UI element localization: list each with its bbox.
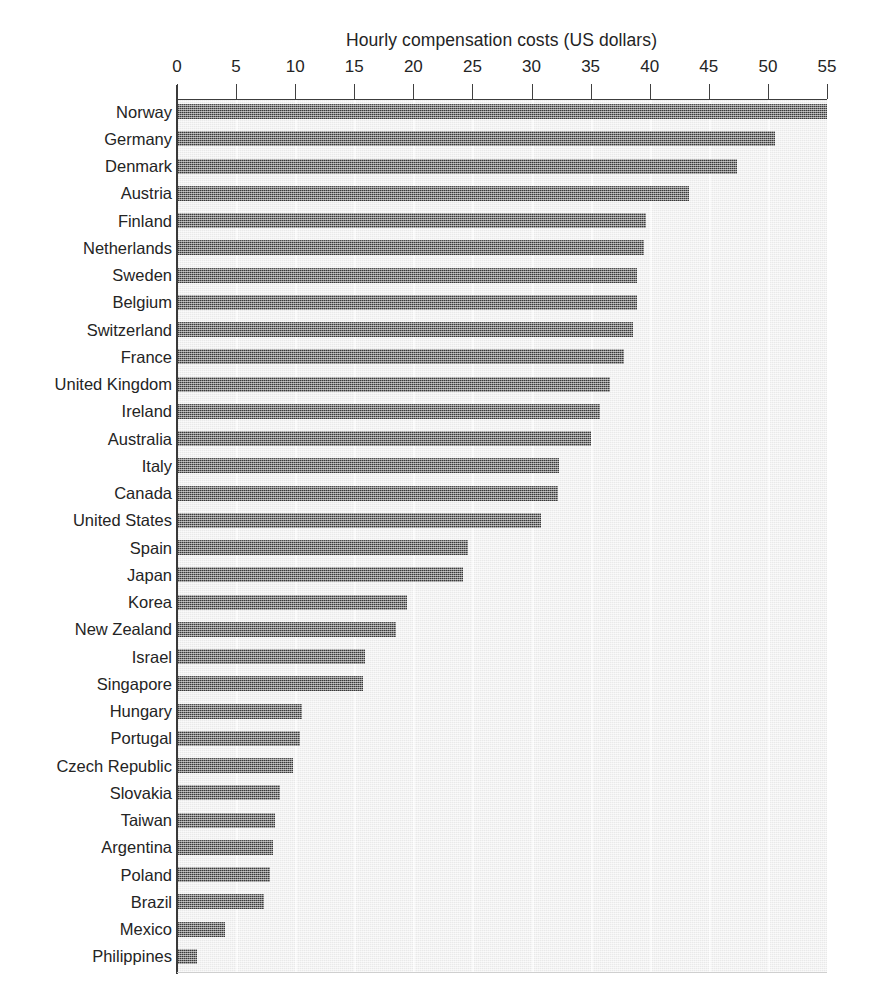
bar — [177, 567, 463, 582]
category-label: Hungary — [110, 703, 172, 719]
bar — [177, 322, 633, 337]
bar-chart-figure: Hourly compensation costs (US dollars) 0… — [0, 0, 872, 1004]
x-tick-label: 40 — [640, 57, 659, 77]
category-label: Singapore — [97, 676, 172, 692]
bar — [177, 840, 273, 855]
category-label: New Zealand — [75, 621, 172, 637]
x-tick-label: 35 — [581, 57, 600, 77]
category-label: Slovakia — [110, 785, 172, 801]
category-label: Switzerland — [87, 322, 172, 338]
bar — [177, 431, 591, 446]
bar — [177, 676, 363, 691]
bar — [177, 458, 559, 473]
gridline — [354, 100, 356, 972]
x-tick-mark — [295, 84, 296, 99]
gridline — [532, 100, 534, 972]
x-tick-label: 30 — [522, 57, 541, 77]
category-label: United States — [73, 512, 172, 528]
category-label: Australia — [108, 431, 172, 447]
bar — [177, 922, 225, 937]
category-label: Italy — [142, 458, 172, 474]
x-tick-label: 25 — [463, 57, 482, 77]
x-tick-mark — [709, 84, 710, 99]
y-axis-line — [176, 85, 178, 974]
x-tick-label: 15 — [345, 57, 364, 77]
bar — [177, 513, 541, 528]
bar — [177, 186, 689, 201]
bar — [177, 758, 293, 773]
x-tick-mark — [413, 84, 414, 99]
gridline — [295, 100, 297, 972]
category-label: Israel — [132, 649, 172, 665]
category-label: Poland — [121, 867, 172, 883]
gridline — [709, 100, 711, 972]
category-label: Czech Republic — [56, 758, 172, 774]
bar — [177, 894, 264, 909]
x-tick-label: 55 — [818, 57, 837, 77]
bar — [177, 104, 827, 119]
x-tick-mark — [354, 84, 355, 99]
bar — [177, 240, 644, 255]
gridline — [650, 100, 652, 972]
bar — [177, 268, 637, 283]
category-label: Denmark — [105, 158, 172, 174]
category-label: Spain — [130, 540, 172, 556]
category-label: Ireland — [122, 403, 172, 419]
category-label: Brazil — [131, 894, 172, 910]
bar — [177, 213, 646, 228]
x-tick-mark — [591, 84, 592, 99]
gridline — [413, 100, 415, 972]
x-tick-label: 0 — [172, 57, 181, 77]
bar — [177, 540, 468, 555]
bar — [177, 377, 610, 392]
bar — [177, 131, 775, 146]
x-tick-mark — [236, 84, 237, 99]
x-axis-tick-labels: 0510152025303540455055 — [0, 57, 872, 79]
bar — [177, 295, 637, 310]
bar — [177, 785, 280, 800]
chart-title: Hourly compensation costs (US dollars) — [177, 30, 826, 51]
category-label: Germany — [104, 131, 172, 147]
bar — [177, 813, 275, 828]
x-tick-label: 5 — [231, 57, 240, 77]
bar — [177, 622, 396, 637]
bar — [177, 595, 407, 610]
bar — [177, 649, 365, 664]
bar — [177, 949, 197, 964]
bar — [177, 404, 600, 419]
gridline — [472, 100, 474, 972]
gridline — [591, 100, 593, 972]
category-label: Korea — [128, 594, 172, 610]
bar — [177, 486, 558, 501]
x-tick-mark — [827, 84, 828, 99]
x-tick-label: 45 — [699, 57, 718, 77]
category-label: Philippines — [92, 948, 172, 964]
category-label: Austria — [121, 185, 172, 201]
category-label: Sweden — [112, 267, 172, 283]
gridline — [768, 100, 770, 972]
category-axis-labels: NorwayGermanyDenmarkAustriaFinlandNether… — [0, 100, 172, 972]
gridlines — [177, 100, 827, 972]
bar — [177, 349, 624, 364]
x-tick-mark — [532, 84, 533, 99]
plot-bottom-border — [177, 972, 827, 973]
category-label: France — [121, 349, 172, 365]
x-tick-label: 20 — [404, 57, 423, 77]
category-label: Netherlands — [83, 240, 172, 256]
category-label: Belgium — [112, 294, 172, 310]
category-label: Norway — [116, 104, 172, 120]
x-tick-label: 50 — [758, 57, 777, 77]
x-tick-mark — [650, 84, 651, 99]
bar — [177, 159, 737, 174]
category-label: Taiwan — [121, 812, 172, 828]
category-label: Argentina — [101, 839, 172, 855]
category-label: Portugal — [111, 730, 172, 746]
category-label: Canada — [114, 485, 172, 501]
x-tick-mark — [472, 84, 473, 99]
category-label: Finland — [118, 213, 172, 229]
category-label: Japan — [127, 567, 172, 583]
category-label: United Kingdom — [55, 376, 172, 392]
plot-area — [177, 100, 827, 972]
bar — [177, 867, 270, 882]
bar — [177, 731, 300, 746]
